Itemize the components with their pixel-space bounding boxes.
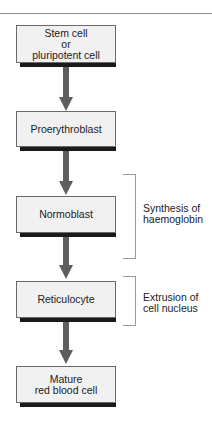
step-stem-cell: Stem cell or pluripotent cell <box>16 25 116 63</box>
arrow-down-icon <box>59 265 73 279</box>
arrow-shaft <box>63 151 69 183</box>
arrow-shaft <box>63 67 69 99</box>
top-rule <box>0 13 212 14</box>
arrow-down-icon <box>59 97 73 111</box>
step-proerythroblast: Proerythroblast <box>16 111 116 147</box>
arrow-down-icon <box>59 350 73 364</box>
arrow-down-icon <box>59 181 73 195</box>
arrow-shaft <box>63 322 69 352</box>
annotation-haemoglobin: Synthesis of haemoglobin <box>143 203 203 225</box>
step-shadow <box>20 403 116 407</box>
step-reticulocyte: Reticulocyte <box>16 281 116 318</box>
bracket-nucleus <box>123 276 136 326</box>
bracket-haemoglobin <box>123 174 136 259</box>
step-normoblast: Normoblast <box>16 196 116 233</box>
arrow-shaft <box>63 237 69 267</box>
step-mature-red-blood-cell: Mature red blood cell <box>16 366 116 403</box>
annotation-nucleus: Extrusion of cell nucleus <box>143 292 198 314</box>
